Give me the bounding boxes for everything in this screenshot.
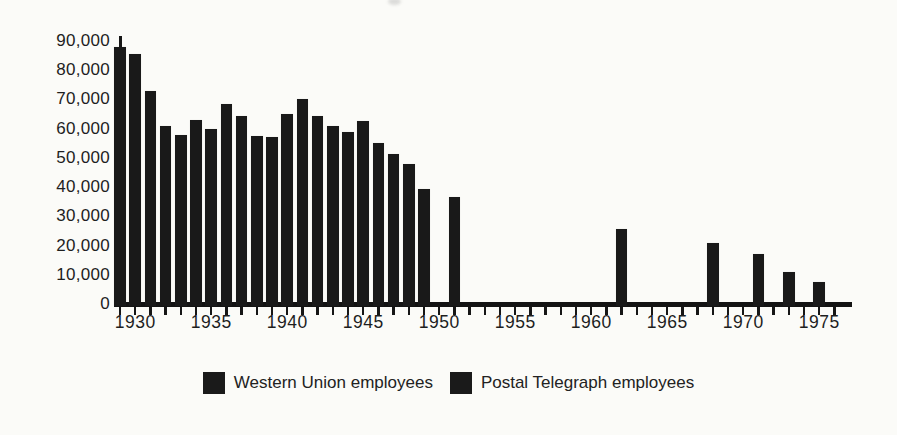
- bar-1947: [388, 154, 400, 306]
- bar-1951: [449, 197, 461, 306]
- legend-item: Western Union employees: [203, 372, 433, 394]
- bar-1939: [266, 137, 278, 306]
- bar-1968: [707, 243, 719, 306]
- bar-1935: [205, 129, 217, 306]
- bar-1944: [342, 132, 354, 306]
- bar-1934: [190, 120, 202, 306]
- x-axis-label: 1955: [483, 312, 547, 333]
- x-axis-label: 1965: [635, 312, 699, 333]
- employment-bar-chart: 90,00080,00070,00060,00050,00040,00030,0…: [0, 0, 897, 435]
- y-axis-label: 30,000: [18, 206, 110, 226]
- bar-1937: [236, 116, 248, 306]
- x-axis-label: 1975: [787, 312, 851, 333]
- bar-1973: [783, 272, 795, 306]
- bar-1945: [357, 121, 369, 306]
- y-axis-label: 80,000: [18, 60, 110, 80]
- x-axis-label: 1950: [407, 312, 471, 333]
- bar-1929: [114, 47, 126, 306]
- scan-smudge: [388, 0, 401, 5]
- bar-1943: [327, 126, 339, 306]
- legend-swatch: [203, 372, 225, 394]
- bar-1932: [160, 126, 172, 306]
- bar-1933: [175, 135, 187, 306]
- x-axis-label: 1960: [559, 312, 623, 333]
- bar-1930: [129, 54, 141, 306]
- x-axis-label: 1940: [255, 312, 319, 333]
- x-axis-label: 1945: [331, 312, 395, 333]
- bar-1975: [813, 282, 825, 306]
- bar-1948: [403, 164, 415, 306]
- bar-1936: [221, 104, 233, 306]
- bar-1962: [616, 229, 628, 306]
- y-axis-label: 10,000: [18, 265, 110, 285]
- bar-1940: [281, 114, 293, 306]
- y-axis-label: 70,000: [18, 89, 110, 109]
- bar-1946: [373, 143, 385, 306]
- bar-1931: [145, 91, 157, 306]
- legend-swatch: [450, 372, 472, 394]
- x-axis-label: 1935: [179, 312, 243, 333]
- x-axis-label: 1930: [103, 312, 167, 333]
- legend-label: Western Union employees: [234, 373, 433, 393]
- bar-1949: [418, 189, 430, 306]
- bar-1971: [753, 254, 765, 306]
- y-axis-label: 90,000: [18, 31, 110, 51]
- legend-item: Postal Telegraph employees: [450, 372, 694, 394]
- y-axis-label: 60,000: [18, 119, 110, 139]
- y-axis-label: 50,000: [18, 148, 110, 168]
- y-axis-label: 20,000: [18, 236, 110, 256]
- legend-label: Postal Telegraph employees: [481, 373, 694, 393]
- legend: Western Union employeesPostal Telegraph …: [0, 372, 897, 394]
- x-axis-label: 1970: [711, 312, 775, 333]
- bar-1938: [251, 136, 263, 306]
- bar-1942: [312, 116, 324, 306]
- bar-1941: [297, 99, 309, 306]
- y-axis-label: 0: [18, 294, 110, 314]
- y-axis-label: 40,000: [18, 177, 110, 197]
